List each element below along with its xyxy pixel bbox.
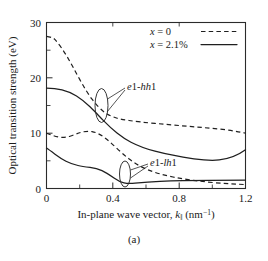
leader-line-e1lh1-lower: [131, 166, 149, 178]
series-e1lh1-x21: [47, 148, 246, 183]
plot-frame: [47, 23, 246, 189]
y-tick-label-30: 30: [30, 17, 42, 29]
y-tick-label-0: 0: [36, 183, 42, 195]
legend-label-x21: x = 2.1%: [149, 39, 188, 50]
y-axis-title: Optical transition strength (eV): [6, 36, 19, 174]
annotation-label-e1lh1: e1-lh1: [150, 157, 177, 168]
x-tick-label-0: 0: [44, 192, 50, 204]
x-tick-label-04: 0.4: [106, 192, 120, 204]
y-tick-label-20: 20: [30, 72, 42, 84]
figure-panel-a: 0 10 20 30 0 0.4 0.8 1.2 Optical transit…: [0, 0, 268, 261]
annotation-label-e1hh1: e1-hh1: [127, 81, 156, 92]
x-axis-ticks: [47, 23, 246, 189]
x-tick-label-08: 0.8: [172, 192, 186, 204]
leader-line-e1lh1-upper: [131, 164, 149, 170]
series-e1lh1-x0: [47, 131, 246, 184]
legend: x = 0 x = 2.1%: [149, 26, 237, 50]
figure-caption: (a): [128, 233, 141, 246]
x-tick-label-12: 1.2: [239, 192, 253, 204]
legend-label-x0: x = 0: [149, 26, 171, 37]
y-tick-label-10: 10: [30, 127, 42, 139]
y-axis-ticks: [47, 23, 53, 189]
series-e1hh1-x21: [47, 88, 246, 160]
x-axis-title: In-plane wave vector, k‖ (nm−1): [77, 208, 215, 223]
